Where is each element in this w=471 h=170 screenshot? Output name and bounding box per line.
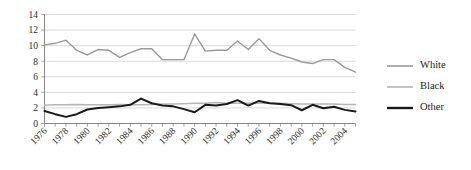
legend-group: WhiteBlackOther (387, 59, 446, 112)
series-line-white (45, 34, 356, 72)
series-line-black (45, 102, 356, 105)
x-tick-label: 1978 (50, 126, 71, 147)
chart-canvas: 02468101214 1976197819801982198419861988… (0, 0, 471, 170)
legend-label-other: Other (420, 101, 444, 112)
x-tick-label: 1980 (71, 126, 92, 147)
line-chart: 02468101214 1976197819801982198419861988… (0, 0, 471, 170)
x-tick-label: 1990 (179, 126, 200, 147)
y-tick-label: 12 (29, 25, 39, 35)
x-tick-label: 2002 (307, 126, 328, 147)
x-tick-label: 2000 (286, 126, 307, 147)
series-group (45, 34, 356, 117)
x-tick-label: 1984 (114, 126, 135, 147)
y-tick-label: 6 (33, 72, 38, 82)
legend-label-black: Black (420, 80, 445, 91)
x-tick-label: 1992 (200, 126, 221, 147)
x-tick-label: 2004 (329, 126, 350, 147)
y-tick-labels-group: 02468101214 (29, 10, 39, 129)
y-tick-label: 2 (33, 103, 38, 113)
x-tick-labels-group: 1976197819801982198419861988199019921994… (28, 126, 349, 147)
x-tick-label: 1996 (243, 126, 264, 147)
x-tick-label: 1988 (157, 126, 178, 147)
x-axis-group (45, 124, 356, 127)
y-tick-label: 8 (33, 57, 38, 67)
x-tick-label: 1976 (28, 126, 49, 147)
x-tick-label: 1994 (221, 126, 242, 147)
y-axis-group (41, 15, 44, 124)
y-tick-label: 14 (29, 10, 39, 20)
y-tick-label: 0 (33, 119, 38, 129)
y-tick-label: 10 (29, 41, 39, 51)
x-tick-label: 1986 (136, 126, 157, 147)
x-tick-label: 1982 (93, 126, 114, 147)
x-tick-label: 1998 (264, 126, 285, 147)
y-tick-label: 4 (33, 88, 38, 98)
legend-label-white: White (420, 59, 446, 70)
